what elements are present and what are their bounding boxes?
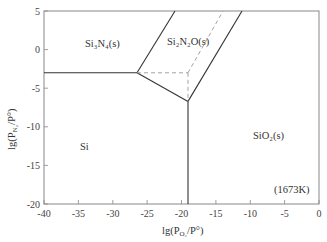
y-tick-label: -15	[27, 160, 40, 171]
region-label-si2n2o: Si₂N₂O(s)	[167, 36, 210, 48]
x-tick-label: -5	[280, 208, 288, 219]
x-tick-label: -10	[244, 208, 257, 219]
temperature-annotation: (1673K)	[274, 184, 310, 196]
x-tick-label: -25	[140, 208, 153, 219]
metastable-lines	[137, 11, 223, 101]
x-tick-label: -35	[72, 208, 85, 219]
region-label-sio2: SiO₂(s)	[253, 130, 285, 142]
boundary-si-si2n2o	[137, 73, 188, 102]
x-tick-label: 0	[317, 208, 322, 219]
y-tick-label: -10	[27, 121, 40, 132]
y-tick-label: 5	[35, 6, 40, 17]
x-axis-label: lg(PO₂/P°)	[162, 225, 204, 238]
y-tick-label: 0	[35, 44, 40, 55]
x-tick-label: -30	[106, 208, 119, 219]
x-tick-label: -15	[209, 208, 222, 219]
boundary-si2n2o-sio2	[188, 11, 242, 101]
y-axis-label: lg(PN₂/P°)	[6, 108, 19, 150]
y-tick-labels: 5 0 -5 -10 -15 -20	[27, 6, 40, 210]
x-tick-label: -40	[37, 208, 50, 219]
y-tick-label: -20	[27, 199, 40, 210]
x-axis-ticks	[44, 200, 319, 204]
x-tick-label: -20	[175, 208, 188, 219]
y-axis-ticks	[44, 11, 48, 204]
x-tick-labels: -40 -35 -30 -25 -20 -15 -10 -5 0	[37, 208, 321, 219]
phase-boundaries	[44, 11, 242, 204]
phase-diagram: -40 -35 -30 -25 -20 -15 -10 -5 0 5 0 -5 …	[0, 0, 327, 242]
y-tick-label: -5	[32, 83, 40, 94]
region-label-si3n4: Si₃N₄(s)	[85, 38, 120, 50]
region-label-si: Si	[80, 141, 89, 152]
